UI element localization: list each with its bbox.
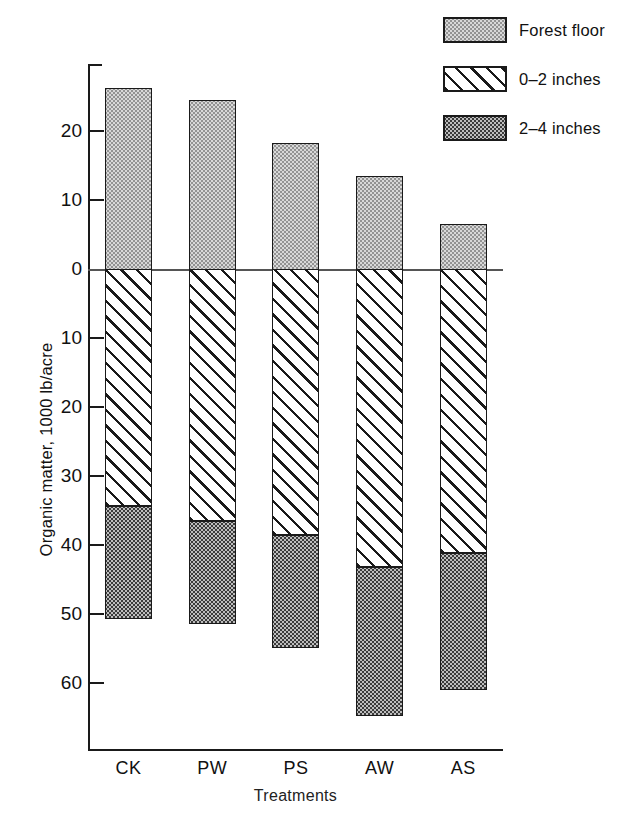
- bar-aw: [356, 0, 403, 822]
- bar-segment-forest-floor: [189, 100, 236, 270]
- bar-segment-0-2-inches: [105, 269, 152, 506]
- bar-ps: [272, 0, 319, 822]
- bar-segment-2-4-inches: [272, 535, 319, 648]
- x-axis-label-as: AS: [426, 758, 501, 779]
- bar-segment-2-4-inches: [356, 567, 403, 716]
- bar-ck: [105, 0, 152, 822]
- y-axis-tick-label: 60: [36, 672, 82, 694]
- y-axis-tick: [90, 475, 104, 477]
- y-axis-tick: [90, 544, 104, 546]
- y-axis-tick: [90, 406, 104, 408]
- bar-segment-2-4-inches: [189, 521, 236, 625]
- y-axis-tick-label: 10: [36, 189, 82, 211]
- y-axis-tick-label: 20: [36, 120, 82, 142]
- x-axis-label-ps: PS: [258, 758, 333, 779]
- x-axis-label-pw: PW: [175, 758, 250, 779]
- bar-segment-0-2-inches: [272, 269, 319, 535]
- bar-segment-0-2-inches: [189, 269, 236, 521]
- x-axis-label-ck: CK: [91, 758, 166, 779]
- y-axis-title: Organic matter, 1000 lb/acre: [37, 300, 56, 600]
- bar-segment-0-2-inches: [356, 269, 403, 567]
- bar-segment-forest-floor: [105, 88, 152, 270]
- bar-segment-2-4-inches: [440, 553, 487, 690]
- bar-segment-2-4-inches: [105, 506, 152, 619]
- y-axis-tick-label: 0: [36, 258, 82, 280]
- y-axis-tick: [90, 130, 104, 132]
- bar-pw: [189, 0, 236, 822]
- y-axis-top-cap: [88, 64, 102, 66]
- bar-segment-0-2-inches: [440, 269, 487, 553]
- x-axis-label-aw: AW: [342, 758, 417, 779]
- y-axis-tick: [90, 199, 104, 201]
- y-axis-tick-label: 50: [36, 603, 82, 625]
- bar-as: [440, 0, 487, 822]
- organic-matter-stacked-bar-chart: Forest floor 0–2 inches 2–4 inches 20100…: [0, 0, 620, 822]
- plot-area: 20100102030405060 CKPWPSAWAS Treatments …: [0, 0, 620, 822]
- y-axis-tick: [90, 613, 104, 615]
- bar-segment-forest-floor: [356, 176, 403, 270]
- y-axis-tick: [90, 337, 104, 339]
- bar-segment-forest-floor: [272, 143, 319, 270]
- x-axis-title: Treatments: [88, 787, 503, 805]
- bar-segment-forest-floor: [440, 224, 487, 270]
- y-axis-tick: [90, 682, 104, 684]
